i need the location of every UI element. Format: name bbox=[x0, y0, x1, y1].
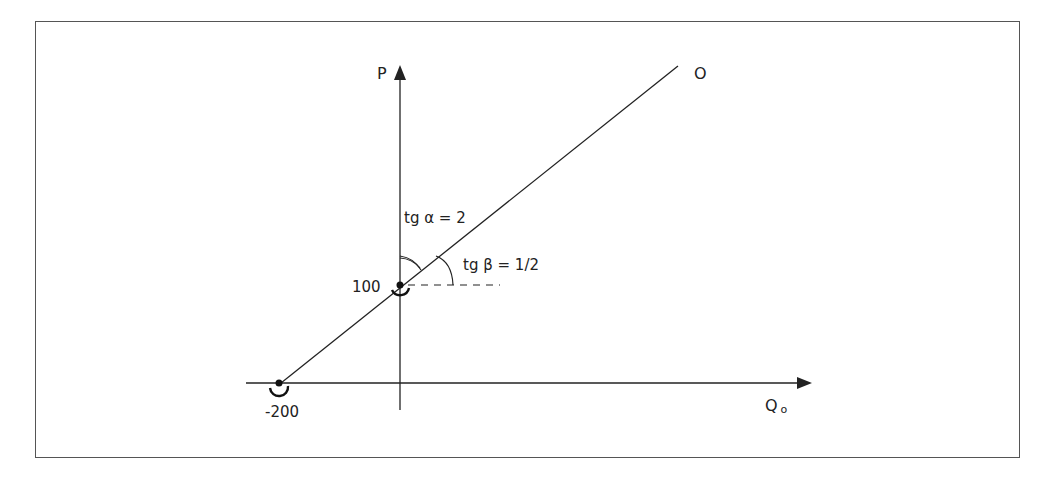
point-100-label: 100 bbox=[352, 280, 381, 295]
supply-line-o bbox=[281, 66, 678, 383]
alpha-angle-label: tg α = 2 bbox=[404, 211, 466, 226]
p-axis-label: P bbox=[377, 66, 387, 82]
point-minus200-label: -200 bbox=[265, 405, 299, 420]
p-axis bbox=[394, 65, 406, 410]
q-axis bbox=[246, 377, 812, 389]
p-axis-arrow-icon bbox=[394, 65, 406, 80]
q-axis-label-main: Q bbox=[765, 396, 778, 415]
q-axis-label-subscript: o bbox=[781, 403, 788, 416]
point-minus200-marker bbox=[270, 380, 288, 397]
diagram-canvas bbox=[0, 0, 1055, 482]
q-axis-label: Qo bbox=[765, 398, 787, 414]
q-axis-arrow-icon bbox=[797, 377, 812, 389]
beta-arc bbox=[436, 256, 453, 285]
line-o-label: O bbox=[694, 66, 707, 82]
beta-angle-label: tg β = 1/2 bbox=[463, 258, 539, 273]
